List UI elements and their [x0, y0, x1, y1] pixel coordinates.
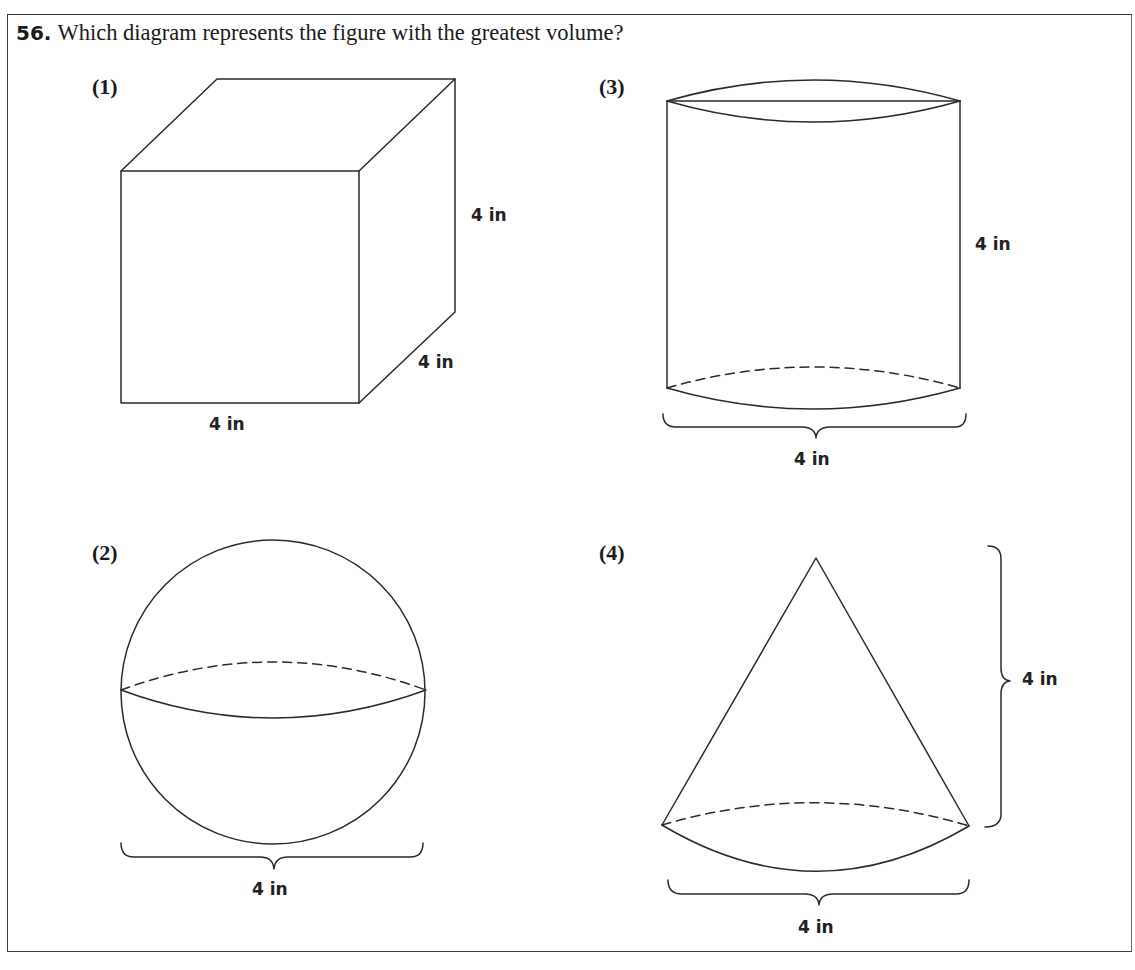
cube-height-label: 4 in — [471, 205, 507, 225]
sphere-equator-front — [121, 690, 426, 718]
cone-base-hidden-arc — [662, 803, 969, 826]
sphere-outline — [121, 540, 425, 844]
cube-width-label: 4 in — [209, 414, 245, 434]
cone-height-brace — [985, 546, 1010, 827]
cylinder-height-label: 4 in — [975, 234, 1011, 254]
cube-front-face — [121, 171, 359, 403]
cube-depth-label: 4 in — [418, 352, 454, 372]
sphere-diameter-label: 4 in — [252, 879, 288, 899]
cone-height-label: 4 in — [1022, 669, 1058, 689]
cylinder-top-back-arc — [667, 80, 960, 101]
cube-figure — [121, 79, 455, 403]
sphere-equator-hidden — [121, 662, 426, 690]
cylinder-bottom-hidden-arc — [667, 367, 960, 388]
cone-diameter-label: 4 in — [798, 917, 834, 937]
cylinder-top-front-arc — [667, 101, 960, 122]
cone-base-front-arc — [662, 825, 969, 871]
sphere-figure — [121, 540, 426, 869]
cone-sides — [662, 558, 969, 826]
sphere-width-brace — [121, 843, 423, 869]
cube-top-face — [121, 79, 455, 171]
cone-figure — [662, 546, 1010, 905]
cylinder-bottom-front-arc — [667, 388, 960, 409]
cylinder-figure — [663, 80, 966, 438]
cylinder-diameter-label: 4 in — [794, 449, 830, 469]
cylinder-width-brace — [663, 414, 966, 438]
cone-width-brace — [668, 880, 969, 905]
